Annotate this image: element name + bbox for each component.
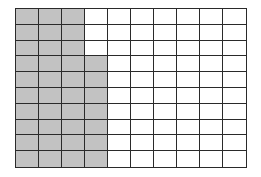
grid-cell-shaded xyxy=(62,120,85,136)
grid-cell xyxy=(131,135,154,151)
grid-cell xyxy=(223,56,246,72)
grid-cell xyxy=(223,104,246,120)
grid-cell xyxy=(131,120,154,136)
grid-cell-shaded xyxy=(16,104,39,120)
grid-cell xyxy=(200,88,223,104)
grid-cell xyxy=(177,56,200,72)
grid-cell-shaded xyxy=(16,135,39,151)
grid-cell xyxy=(200,9,223,25)
grid-cell xyxy=(223,9,246,25)
grid-cell-shaded xyxy=(85,72,108,88)
grid-cell xyxy=(154,72,177,88)
grid-cell xyxy=(223,135,246,151)
grid-cell xyxy=(108,104,131,120)
grid-cell xyxy=(154,135,177,151)
grid-cell-shaded xyxy=(39,41,62,57)
grid-cell-shaded xyxy=(85,135,108,151)
grid-cell xyxy=(200,72,223,88)
grid-cell xyxy=(177,120,200,136)
grid-cell xyxy=(131,41,154,57)
grid-cell xyxy=(177,135,200,151)
grid-cell xyxy=(223,41,246,57)
grid-cell xyxy=(108,25,131,41)
grid-cell xyxy=(154,104,177,120)
grid-cell xyxy=(85,41,108,57)
grid-cell xyxy=(177,104,200,120)
grid-cell-shaded xyxy=(62,151,85,167)
grid-cell xyxy=(200,56,223,72)
grid-cell-shaded xyxy=(16,88,39,104)
grid-cell xyxy=(200,120,223,136)
grid-cell xyxy=(85,9,108,25)
grid-cell-shaded xyxy=(39,104,62,120)
grid-cell xyxy=(131,56,154,72)
grid-cell xyxy=(223,72,246,88)
grid-cell xyxy=(108,41,131,57)
grid-cell-shaded xyxy=(16,25,39,41)
grid-cell xyxy=(131,72,154,88)
grid-cell xyxy=(108,9,131,25)
grid-cell-shaded xyxy=(85,88,108,104)
grid-cell-shaded xyxy=(39,56,62,72)
grid-cell xyxy=(177,88,200,104)
grid-cell xyxy=(200,104,223,120)
grid-cell xyxy=(108,56,131,72)
grid-cell-shaded xyxy=(39,120,62,136)
grid-cell xyxy=(154,56,177,72)
grid-cell xyxy=(108,151,131,167)
grid-cell xyxy=(85,25,108,41)
grid-cell xyxy=(131,9,154,25)
grid-cell-shaded xyxy=(85,151,108,167)
grid-cell xyxy=(177,9,200,25)
grid-cell xyxy=(154,9,177,25)
grid-cell xyxy=(154,151,177,167)
grid-cell-shaded xyxy=(62,135,85,151)
grid-cell xyxy=(177,72,200,88)
grid-cell xyxy=(223,88,246,104)
grid-cell-shaded xyxy=(16,9,39,25)
grid-cell-shaded xyxy=(16,41,39,57)
grid-cell-shaded xyxy=(85,104,108,120)
grid-cell-shaded xyxy=(39,25,62,41)
grid-cell-shaded xyxy=(62,25,85,41)
grid-cell-shaded xyxy=(62,9,85,25)
grid-cell-shaded xyxy=(39,135,62,151)
grid-cell-shaded xyxy=(85,56,108,72)
grid-cell xyxy=(200,135,223,151)
grid-cell xyxy=(108,72,131,88)
grid-cell xyxy=(177,151,200,167)
grid-cell-shaded xyxy=(39,9,62,25)
grid-cell xyxy=(223,120,246,136)
grid-cell-shaded xyxy=(39,151,62,167)
grid-cell xyxy=(154,41,177,57)
grid-cell-shaded xyxy=(16,72,39,88)
grid-cell-shaded xyxy=(16,151,39,167)
grid-cell-shaded xyxy=(62,56,85,72)
grid-cell-shaded xyxy=(16,120,39,136)
grid-cell xyxy=(108,120,131,136)
grid-cell-shaded xyxy=(62,72,85,88)
hundred-grid xyxy=(15,8,247,168)
grid-cell xyxy=(177,41,200,57)
grid-cell xyxy=(200,41,223,57)
grid-cell xyxy=(108,88,131,104)
grid-cell xyxy=(200,151,223,167)
grid-cell xyxy=(223,25,246,41)
grid-cell-shaded xyxy=(62,88,85,104)
grid-cell xyxy=(223,151,246,167)
grid-cell xyxy=(154,25,177,41)
grid-cell xyxy=(131,88,154,104)
grid-cell-shaded xyxy=(16,56,39,72)
grid-cell-shaded xyxy=(62,41,85,57)
grid-cell-shaded xyxy=(85,120,108,136)
grid-cell-shaded xyxy=(39,72,62,88)
grid-cell xyxy=(108,135,131,151)
grid-cell xyxy=(154,88,177,104)
grid-cell xyxy=(131,104,154,120)
grid-cell-shaded xyxy=(39,88,62,104)
grid-cell xyxy=(177,25,200,41)
grid-cell xyxy=(131,151,154,167)
grid-cell xyxy=(131,25,154,41)
grid-cell-shaded xyxy=(62,104,85,120)
grid-cell xyxy=(154,120,177,136)
